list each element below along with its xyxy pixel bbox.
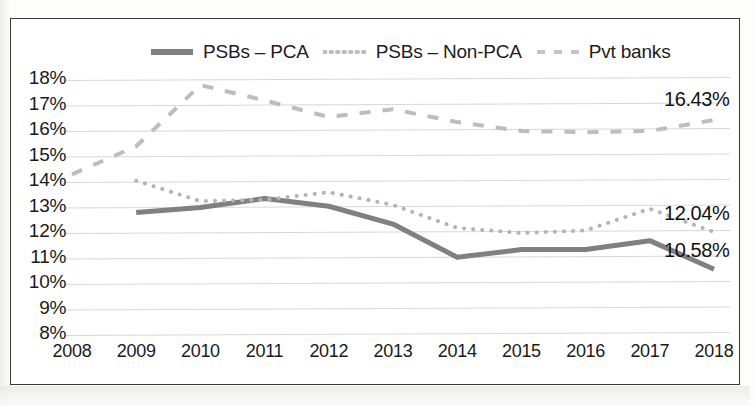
legend-label-psbs-non-pca: PSBs – Non-PCA bbox=[376, 41, 522, 63]
y-tick-label: 13% bbox=[14, 195, 66, 217]
legend-label-pvt-banks: Pvt banks bbox=[589, 41, 671, 63]
chart-legend: PSBs – PCA PSBs – Non-PCA Pvt banks bbox=[150, 38, 670, 66]
x-tick-label: 2008 bbox=[42, 341, 102, 362]
page-edge-shadow-left bbox=[0, 0, 10, 406]
y-tick-label: 17% bbox=[14, 93, 66, 115]
x-tick-label: 2009 bbox=[106, 341, 166, 362]
legend-swatch-dashed-icon bbox=[536, 45, 580, 59]
y-tick-label: 18% bbox=[14, 67, 66, 89]
x-tick-label: 2010 bbox=[170, 341, 230, 362]
x-tick-label: 2017 bbox=[620, 341, 680, 362]
legend-item-psbs-non-pca[interactable]: PSBs – Non-PCA bbox=[323, 41, 522, 63]
x-tick-label: 2016 bbox=[556, 341, 616, 362]
series-end-label: 12.04% bbox=[664, 202, 729, 225]
y-tick-label: 16% bbox=[14, 118, 66, 140]
chart-plot-frame bbox=[10, 18, 740, 385]
series-end-label: 10.58% bbox=[664, 239, 729, 262]
x-tick-label: 2013 bbox=[363, 341, 423, 362]
x-tick-label: 2012 bbox=[299, 341, 359, 362]
y-tick-label: 10% bbox=[14, 271, 66, 293]
x-tick-label: 2011 bbox=[235, 341, 295, 362]
legend-item-pvt-banks[interactable]: Pvt banks bbox=[536, 41, 671, 63]
legend-swatch-solid-icon bbox=[150, 45, 194, 59]
series-end-label: 16.43% bbox=[664, 88, 729, 111]
x-tick-label: 2018 bbox=[684, 341, 744, 362]
y-tick-label: 9% bbox=[14, 297, 66, 319]
chart-figure: PSBs – PCA PSBs – Non-PCA Pvt banks 18%1… bbox=[0, 0, 754, 406]
y-tick-label: 15% bbox=[14, 144, 66, 166]
x-tick-label: 2014 bbox=[427, 341, 487, 362]
legend-item-psbs-pca[interactable]: PSBs – PCA bbox=[150, 41, 309, 63]
y-tick-label: 11% bbox=[14, 246, 66, 268]
legend-label-psbs-pca: PSBs – PCA bbox=[203, 41, 309, 63]
page-edge-shadow-bottom bbox=[0, 386, 750, 406]
legend-swatch-dotted-icon bbox=[323, 45, 367, 59]
y-tick-label: 12% bbox=[14, 220, 66, 242]
x-tick-label: 2015 bbox=[491, 341, 551, 362]
y-tick-label: 14% bbox=[14, 169, 66, 191]
